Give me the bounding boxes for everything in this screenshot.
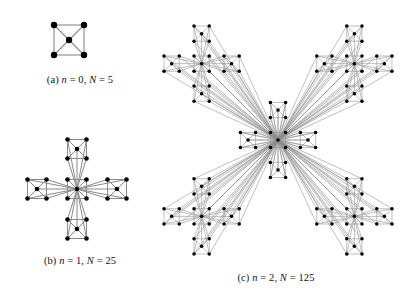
graph-node	[269, 131, 273, 135]
graph-node	[200, 245, 204, 249]
graph-node	[375, 69, 379, 73]
graph-node	[200, 32, 204, 35]
graph-node	[65, 177, 70, 182]
graph-node	[353, 62, 357, 66]
graph-node	[207, 207, 211, 211]
graph-node	[207, 222, 211, 226]
graph-node	[170, 62, 174, 66]
graph-node	[353, 185, 357, 189]
graph-node	[276, 108, 280, 112]
graph-edge	[278, 101, 347, 140]
graph-node	[353, 32, 357, 35]
graph-node	[269, 146, 273, 150]
graph-node	[84, 137, 89, 142]
graph-node	[200, 215, 204, 219]
graph-node	[162, 69, 166, 73]
graph-node	[66, 37, 72, 43]
graph-node	[375, 207, 379, 211]
graph-node	[360, 69, 364, 73]
caption-a-prefix: (a)	[47, 74, 62, 85]
graph-node	[177, 69, 181, 73]
graph-node	[383, 215, 387, 219]
graph-edge	[239, 71, 278, 140]
graph-node	[315, 69, 319, 73]
graph-node	[192, 252, 196, 256]
graph-node	[84, 217, 89, 222]
graph-node	[222, 69, 226, 73]
graph-node	[360, 24, 364, 28]
graph-node	[207, 177, 211, 181]
graph-node	[314, 146, 318, 150]
graph-node	[284, 131, 288, 135]
caption-generation-1: (b) n = 1, N = 25	[0, 255, 160, 267]
graph-node	[276, 138, 280, 142]
graph-node	[222, 54, 226, 58]
graph-node	[65, 137, 70, 142]
graph-node	[192, 237, 196, 241]
graph-node	[345, 252, 349, 256]
graph-node	[353, 92, 357, 96]
graph-node	[246, 138, 250, 142]
graph-node	[239, 146, 243, 150]
graph-node	[35, 187, 40, 192]
graph-node	[170, 215, 174, 219]
graph-edge	[278, 71, 317, 140]
graph-node	[177, 207, 181, 211]
graph-node	[81, 22, 87, 28]
graph-node	[81, 52, 87, 58]
panel-generation-1	[0, 128, 160, 250]
graph-node	[177, 54, 181, 58]
graph-edge	[202, 140, 278, 216]
graph-edge	[164, 71, 278, 140]
graph-node	[284, 146, 288, 150]
graph-node	[192, 54, 196, 58]
graph-node	[345, 177, 349, 181]
graph-node	[375, 54, 379, 58]
graph-node	[269, 101, 273, 105]
graph-node	[105, 177, 110, 182]
graph-node	[65, 156, 70, 161]
graph-node	[345, 84, 349, 88]
caption-a-n-value: = 0,	[70, 74, 87, 85]
graph-node	[390, 207, 394, 211]
graph-node	[330, 54, 334, 58]
graph-edge	[209, 140, 278, 179]
graph-node	[207, 54, 211, 58]
graph-node	[177, 222, 181, 226]
graph-node	[51, 22, 57, 28]
graph-node	[65, 217, 70, 222]
graph-node	[299, 131, 303, 135]
graph-edge	[202, 64, 278, 140]
caption-a-N-symbol: N	[89, 74, 96, 85]
graph-edge	[278, 64, 354, 140]
graph-node	[375, 222, 379, 226]
graph-node	[360, 84, 364, 88]
graph-node	[25, 177, 30, 182]
graph-node	[269, 176, 273, 180]
panel-generation-0	[0, 8, 160, 72]
graph-node	[345, 39, 349, 43]
graph-edge	[278, 140, 347, 179]
caption-b-N-symbol: N	[87, 255, 94, 266]
graph-node	[237, 222, 241, 226]
graph-node	[84, 236, 89, 241]
graph-node	[323, 215, 327, 219]
caption-b-N-value: = 25	[97, 255, 116, 266]
graph-node	[345, 237, 349, 241]
graph-node	[200, 62, 204, 66]
graph-edge	[209, 140, 278, 254]
graph-node	[345, 222, 349, 226]
graph-node	[65, 236, 70, 241]
graph-node	[222, 207, 226, 211]
graph-node	[383, 62, 387, 66]
caption-b-n-value: = 1,	[67, 255, 84, 266]
graph-node	[51, 52, 57, 58]
graph-node	[75, 227, 80, 232]
graph-node	[115, 187, 120, 192]
caption-c-N-value: = 125	[290, 272, 315, 283]
graph-node	[345, 69, 349, 73]
graph-node	[192, 39, 196, 43]
graph-node	[207, 99, 211, 103]
graph-node	[360, 192, 364, 196]
graph-node	[105, 196, 110, 201]
